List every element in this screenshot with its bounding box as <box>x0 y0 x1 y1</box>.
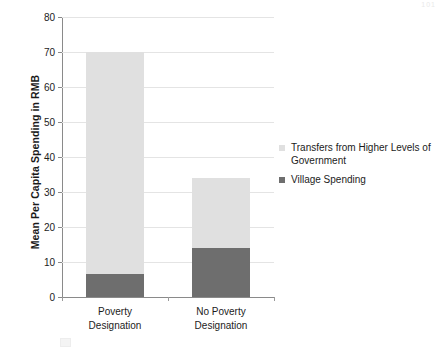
bar-stack[interactable] <box>192 17 250 297</box>
y-axis-title: Mean Per Capita Spending in RMB <box>29 47 41 277</box>
x-category-label-line: Designation <box>62 319 168 333</box>
y-tick-label: 50 <box>44 117 55 128</box>
y-tick-label: 30 <box>44 187 55 198</box>
y-tick-label: 60 <box>44 82 55 93</box>
x-category-label-line: Designation <box>168 319 274 333</box>
y-tick-label: 10 <box>44 257 55 268</box>
legend-label: Transfers from Higher Levels of Governme… <box>291 141 439 167</box>
y-tick-label: 80 <box>44 12 55 23</box>
chart-figure: 101 Mean Per Capita Spending in RMB 0102… <box>0 0 442 353</box>
x-tick-mark <box>274 297 275 301</box>
y-tick-mark <box>58 192 62 193</box>
x-category-label-line: No Poverty <box>168 305 274 319</box>
y-tick-mark <box>58 17 62 18</box>
legend-item[interactable]: Village Spending <box>279 173 439 186</box>
y-tick-mark <box>58 157 62 158</box>
bar-segment[interactable] <box>86 52 144 274</box>
y-tick-mark <box>58 122 62 123</box>
legend-label: Village Spending <box>291 173 366 186</box>
x-category-label: No PovertyDesignation <box>168 305 274 332</box>
y-tick-label: 0 <box>49 292 55 303</box>
legend-swatch-icon <box>279 177 285 183</box>
bar-segment[interactable] <box>86 274 144 297</box>
chart-legend: Transfers from Higher Levels of Governme… <box>279 141 439 192</box>
y-tick-mark <box>58 262 62 263</box>
x-category-label-line: Poverty <box>62 305 168 319</box>
y-tick-mark <box>58 52 62 53</box>
bar-stack[interactable] <box>86 17 144 297</box>
legend-item[interactable]: Transfers from Higher Levels of Governme… <box>279 141 439 167</box>
scan-mark-artifact <box>60 338 71 347</box>
legend-swatch-icon <box>279 145 285 151</box>
bar-segment[interactable] <box>192 248 250 297</box>
x-tick-mark <box>168 297 169 301</box>
y-tick-mark <box>58 227 62 228</box>
y-tick-label: 40 <box>44 152 55 163</box>
plot-area: 01020304050607080 PovertyDesignationNo P… <box>62 17 274 297</box>
page-number-artifact: 101 <box>421 1 436 8</box>
y-tick-mark <box>58 87 62 88</box>
x-category-label: PovertyDesignation <box>62 305 168 332</box>
x-tick-mark <box>62 297 63 301</box>
y-tick-label: 20 <box>44 222 55 233</box>
bar-segment[interactable] <box>192 178 250 248</box>
y-tick-label: 70 <box>44 47 55 58</box>
